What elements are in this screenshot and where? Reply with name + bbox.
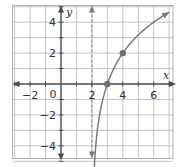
function-curve bbox=[93, 12, 169, 167]
y-axis-label: y bbox=[65, 6, 73, 19]
curve-group bbox=[91, 12, 170, 167]
x-tick-label: 2 bbox=[88, 89, 95, 102]
origin-label: 0 bbox=[50, 88, 57, 101]
function-graph: −22460−4−224xy bbox=[0, 0, 182, 167]
data-point bbox=[104, 81, 110, 87]
data-point bbox=[120, 50, 126, 56]
y-tick-label: 2 bbox=[49, 47, 56, 60]
y-tick-label: −2 bbox=[40, 109, 56, 122]
x-tick-label: 4 bbox=[119, 89, 126, 102]
grid-border bbox=[13, 6, 174, 159]
x-tick-label: 6 bbox=[150, 89, 157, 102]
x-axis-arrow-left-icon bbox=[13, 81, 20, 87]
x-tick-label: −2 bbox=[22, 89, 38, 102]
axes bbox=[13, 6, 177, 162]
y-tick-label: −4 bbox=[40, 140, 56, 153]
y-axis-arrow-down-icon bbox=[58, 154, 64, 161]
asymptote-arrow-down-icon bbox=[89, 152, 95, 159]
y-tick-label: 4 bbox=[49, 16, 56, 29]
x-axis-label: x bbox=[163, 69, 170, 82]
